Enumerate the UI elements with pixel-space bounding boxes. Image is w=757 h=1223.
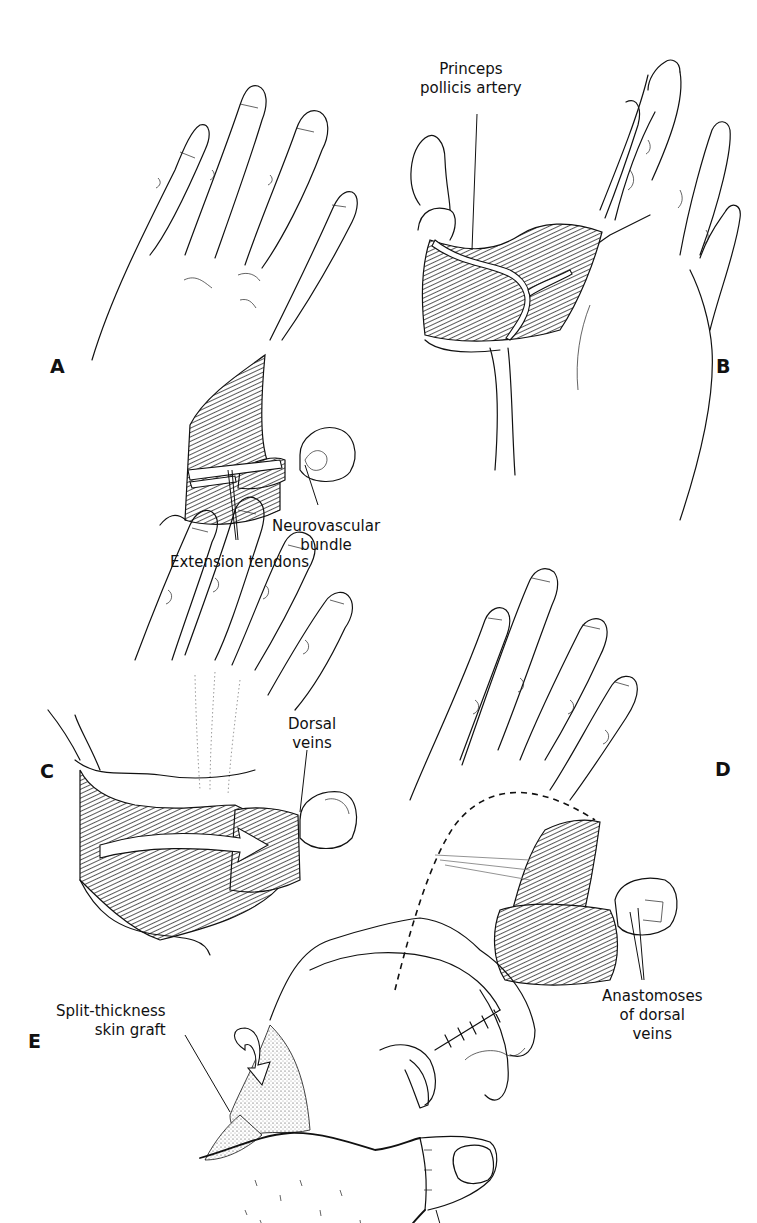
- label-split-thickness-skin-graft: Split-thickness skin graft: [56, 1002, 166, 1040]
- hand-dorsal-illustration-c: [0, 460, 380, 860]
- label-dorsal-veins: Dorsal veins: [288, 715, 336, 753]
- panel-c: C Dorsal veins: [0, 460, 380, 860]
- label-princeps-pollicis-artery: Princeps pollicis artery: [420, 60, 522, 98]
- hand-dorsal-illustration-d: [380, 460, 757, 880]
- panel-letter-b: B: [716, 355, 730, 377]
- panel-e: E Split-thickness skin graft Completed r…: [0, 850, 757, 1223]
- panel-letter-a: A: [50, 355, 65, 377]
- panel-letter-c: C: [40, 760, 54, 782]
- panel-d: D Anastomoses of dorsal veins: [380, 460, 757, 880]
- panel-letter-d: D: [715, 758, 731, 780]
- panel-a: A Neurovascular bundle Extension tendons: [0, 0, 370, 420]
- panel-letter-e: E: [28, 1030, 41, 1052]
